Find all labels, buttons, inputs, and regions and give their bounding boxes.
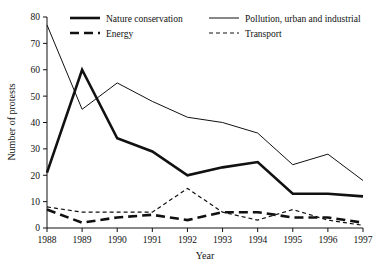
x-tick-label: 1990 — [108, 235, 127, 245]
chart-legend: Nature conservation Pollution, urban and… — [70, 14, 361, 39]
x-tick-label: 1994 — [248, 235, 267, 245]
chart-container: Nature conservation Pollution, urban and… — [0, 0, 379, 266]
series-line-pollution-urban-and-industrial — [47, 25, 363, 181]
y-tick-label: 80 — [31, 12, 41, 22]
y-axis-ticks: 01020304050607080 — [31, 12, 48, 233]
y-tick-label: 40 — [31, 118, 41, 128]
legend-label-nature-conservation: Nature conservation — [106, 14, 183, 24]
protests-line-chart: Nature conservation Pollution, urban and… — [0, 0, 379, 266]
y-tick-label: 0 — [35, 223, 40, 233]
x-tick-label: 1997 — [354, 235, 373, 245]
x-tick-label: 1991 — [143, 235, 162, 245]
legend-item-nature-conservation: Nature conservation — [70, 14, 183, 24]
y-tick-label: 70 — [31, 39, 41, 49]
legend-item-energy: Energy — [70, 29, 134, 39]
y-tick-label: 30 — [31, 144, 41, 154]
y-tick-label: 60 — [31, 65, 41, 75]
x-tick-label: 1988 — [38, 235, 57, 245]
x-tick-label: 1995 — [283, 235, 302, 245]
y-tick-label: 10 — [31, 197, 41, 207]
x-axis-ticks: 1988198919901991199219931994199519961997 — [38, 228, 373, 245]
legend-item-transport: Transport — [209, 29, 282, 39]
legend-label-transport: Transport — [245, 29, 282, 39]
legend-item-pollution: Pollution, urban and industrial — [209, 14, 361, 24]
x-tick-label: 1989 — [73, 235, 92, 245]
x-tick-label: 1996 — [318, 235, 337, 245]
x-tick-label: 1992 — [178, 235, 197, 245]
x-axis-title: Year — [196, 250, 215, 261]
x-tick-label: 1993 — [213, 235, 232, 245]
y-tick-label: 50 — [31, 92, 41, 102]
chart-series-layer — [47, 25, 363, 225]
y-tick-label: 20 — [31, 171, 41, 181]
legend-label-pollution: Pollution, urban and industrial — [245, 14, 361, 24]
series-line-nature-conservation — [47, 70, 363, 197]
legend-label-energy: Energy — [106, 29, 134, 39]
y-axis-title: Number of protests — [6, 83, 17, 160]
series-line-energy — [47, 210, 363, 223]
